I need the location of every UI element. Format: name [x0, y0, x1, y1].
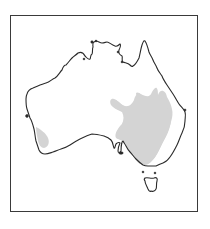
island-fraser: [184, 109, 186, 111]
island-groote: [117, 51, 119, 53]
island-flinders: [154, 172, 156, 174]
range-south-west: [36, 127, 49, 148]
tasmania-coastline: [144, 178, 157, 192]
australia-map: [0, 0, 210, 229]
island-nw: [83, 58, 85, 60]
island-shark-bay: [26, 115, 29, 118]
island-king: [142, 171, 144, 173]
island-wellesley: [121, 61, 123, 63]
island-melville: [95, 40, 97, 42]
island-kangaroo: [119, 152, 123, 154]
island-tiwi: [91, 41, 93, 43]
